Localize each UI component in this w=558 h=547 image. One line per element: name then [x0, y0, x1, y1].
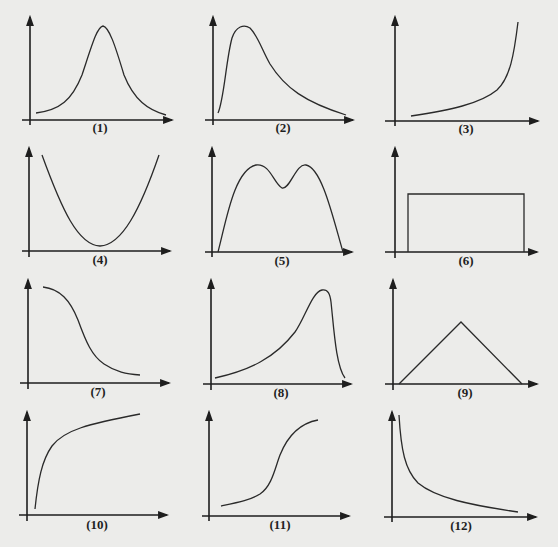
hyperbolic-decay-curve	[399, 415, 518, 512]
bimodal-curve	[218, 165, 343, 252]
panel-5	[205, 148, 352, 257]
panel-4	[22, 148, 170, 257]
curve-shapes-figure: (1) (2) (3) (4) (5) (6) (7) (8) (9) (10)…	[0, 0, 558, 547]
sigmoid-curve	[221, 420, 318, 506]
panel-label-2: (2)	[275, 120, 290, 136]
figure-canvas	[0, 0, 558, 547]
right-skewed-curve	[218, 26, 346, 115]
left-skewed-curve	[215, 290, 345, 378]
panel-10	[19, 412, 167, 521]
panel-label-3: (3)	[458, 121, 473, 137]
rectangle-shape	[408, 194, 524, 252]
panel-6	[385, 148, 537, 258]
panel-label-1: (1)	[92, 120, 107, 136]
triangle-shape	[399, 322, 522, 384]
reverse-s-curve	[43, 287, 140, 375]
bell-curve	[36, 26, 166, 115]
panel-label-12: (12)	[450, 518, 472, 534]
log-growth-curve	[35, 414, 140, 509]
exponential-curve	[411, 22, 518, 116]
panel-11	[202, 412, 349, 521]
panel-label-9: (9)	[457, 385, 472, 401]
panel-label-10: (10)	[86, 517, 108, 533]
u-curve	[42, 155, 159, 246]
panel-label-8: (8)	[273, 385, 288, 401]
panel-2	[205, 17, 353, 125]
panel-3	[385, 17, 538, 126]
panel-9	[385, 280, 537, 390]
panel-label-5: (5)	[274, 253, 289, 269]
panel-7	[20, 280, 169, 389]
panel-label-6: (6)	[458, 253, 473, 269]
panel-1	[22, 17, 172, 125]
panel-label-4: (4)	[92, 252, 107, 268]
panel-8	[203, 280, 351, 390]
panel-label-11: (11)	[270, 517, 291, 533]
panel-12	[384, 412, 536, 522]
panel-label-7: (7)	[90, 384, 105, 400]
